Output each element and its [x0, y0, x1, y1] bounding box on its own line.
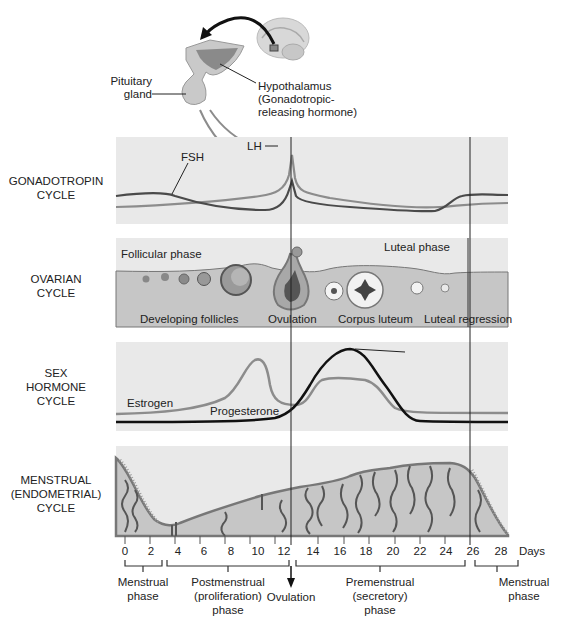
menstrual-phase-label: Menstrual phase [118, 575, 169, 603]
phase-brackets [125, 560, 518, 572]
days-unit-label: Days [519, 545, 545, 557]
ovulation-phase-label: Ovulation [267, 590, 316, 604]
day-marker-lines [0, 0, 561, 627]
postmenstrual-phase-label: Postmenstrual (proliferation) phase [191, 575, 265, 617]
ovulation-arrow-icon [287, 578, 295, 588]
premenstrual-phase-label: Premenstrual (secretory) phase [346, 575, 414, 617]
menstrual-phase-label-2: Menstrual phase [499, 575, 550, 603]
